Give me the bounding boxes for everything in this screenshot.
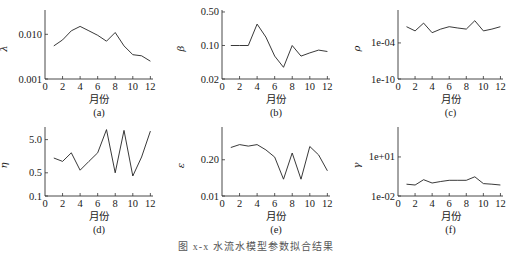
y-tick-label: 1e+01 bbox=[369, 151, 395, 162]
y-axis-label: η bbox=[0, 163, 9, 169]
panel-label: (a) bbox=[93, 107, 105, 119]
y-tick-label: 0.02 bbox=[201, 74, 219, 85]
panel-label: (b) bbox=[270, 107, 283, 119]
y-tick-label: 5.0 bbox=[29, 134, 42, 145]
x-tick-label: 10 bbox=[305, 198, 316, 209]
x-tick-label: 12 bbox=[322, 198, 333, 209]
x-tick-label: 10 bbox=[128, 81, 139, 92]
x-axis-label: 月份 bbox=[441, 93, 462, 105]
x-tick-label: 4 bbox=[77, 81, 83, 92]
y-tick-label: 0.010 bbox=[18, 29, 42, 40]
data-line bbox=[407, 21, 501, 33]
x-axis-label: 月份 bbox=[89, 93, 110, 105]
y-tick-label: 0.01 bbox=[201, 191, 219, 202]
chart-panel-c: 1e-101e-04024681012ρ月份(c) bbox=[351, 10, 506, 119]
x-tick-label: 6 bbox=[272, 81, 277, 92]
y-tick-label: 1e-10 bbox=[371, 74, 395, 85]
y-axis-label: λ bbox=[0, 45, 9, 52]
x-tick-label: 0 bbox=[42, 81, 47, 92]
data-line bbox=[231, 145, 328, 180]
x-axis-label: 月份 bbox=[266, 210, 287, 222]
x-tick-label: 8 bbox=[113, 198, 118, 209]
x-tick-label: 0 bbox=[42, 198, 47, 209]
x-tick-label: 4 bbox=[430, 198, 436, 209]
y-tick-label: 1e-04 bbox=[371, 37, 396, 48]
panel-label: (f) bbox=[445, 224, 456, 236]
x-tick-label: 10 bbox=[128, 198, 139, 209]
x-tick-label: 0 bbox=[219, 198, 224, 209]
x-tick-label: 12 bbox=[495, 81, 506, 92]
x-tick-label: 4 bbox=[430, 81, 436, 92]
x-tick-label: 2 bbox=[237, 81, 242, 92]
chart-panel-e: 0.010.20024681012ε月份(e) bbox=[175, 127, 333, 236]
x-tick-label: 8 bbox=[464, 198, 469, 209]
y-tick-label: 1e-02 bbox=[371, 191, 395, 202]
chart-panel-a: 0.0010.010024681012λ月份(a) bbox=[0, 10, 156, 119]
x-tick-label: 6 bbox=[95, 81, 100, 92]
x-tick-label: 2 bbox=[60, 81, 65, 92]
x-tick-label: 10 bbox=[305, 81, 316, 92]
x-tick-label: 6 bbox=[272, 198, 277, 209]
data-line bbox=[54, 130, 151, 176]
panel-label: (c) bbox=[445, 107, 457, 119]
chart-panel-b: 0.020.100.50024681012β月份(b) bbox=[175, 6, 333, 119]
y-axis-label: ρ bbox=[351, 45, 362, 52]
data-line bbox=[407, 177, 501, 185]
x-axis-label: 月份 bbox=[266, 93, 287, 105]
x-tick-label: 8 bbox=[464, 81, 469, 92]
panel-label: (e) bbox=[270, 224, 282, 236]
x-tick-label: 8 bbox=[290, 198, 295, 209]
y-axis-label: ε bbox=[175, 163, 186, 168]
x-tick-label: 0 bbox=[395, 81, 400, 92]
data-line bbox=[231, 24, 328, 67]
x-axis-label: 月份 bbox=[441, 210, 462, 222]
x-tick-label: 12 bbox=[495, 198, 506, 209]
x-tick-label: 2 bbox=[412, 81, 417, 92]
x-tick-label: 12 bbox=[322, 81, 333, 92]
x-tick-label: 2 bbox=[412, 198, 417, 209]
y-axis-label: γ bbox=[351, 162, 362, 168]
x-tick-label: 4 bbox=[254, 81, 260, 92]
x-tick-label: 0 bbox=[395, 198, 400, 209]
x-tick-label: 8 bbox=[113, 81, 118, 92]
x-tick-label: 6 bbox=[447, 81, 452, 92]
y-tick-label: 0.50 bbox=[201, 6, 219, 17]
x-tick-label: 6 bbox=[95, 198, 100, 209]
x-tick-label: 8 bbox=[290, 81, 295, 92]
x-tick-label: 2 bbox=[60, 198, 65, 209]
chart-panel-d: 0.10.55.0024681012η月份(d) bbox=[0, 127, 156, 236]
y-tick-label: 0.001 bbox=[18, 74, 42, 85]
y-tick-label: 0.1 bbox=[29, 191, 42, 202]
x-tick-label: 4 bbox=[254, 198, 260, 209]
data-line bbox=[54, 26, 151, 61]
figure-caption: 图 x-x 水流水模型参数拟合结果 bbox=[0, 238, 512, 253]
x-axis-label: 月份 bbox=[89, 210, 110, 222]
x-tick-label: 12 bbox=[145, 81, 156, 92]
x-tick-label: 12 bbox=[145, 198, 156, 209]
panel-label: (d) bbox=[93, 224, 106, 236]
x-tick-label: 4 bbox=[77, 198, 83, 209]
chart-panel-f: 1e-021e+01024681012γ月份(f) bbox=[351, 127, 506, 236]
x-tick-label: 6 bbox=[447, 198, 452, 209]
y-tick-label: 0.5 bbox=[29, 167, 42, 178]
x-tick-label: 10 bbox=[478, 81, 489, 92]
x-tick-label: 10 bbox=[478, 198, 489, 209]
x-tick-label: 2 bbox=[237, 198, 242, 209]
x-tick-label: 0 bbox=[219, 81, 224, 92]
y-axis-label: β bbox=[175, 45, 186, 52]
y-tick-label: 0.10 bbox=[201, 40, 219, 51]
y-tick-label: 0.20 bbox=[201, 154, 219, 165]
